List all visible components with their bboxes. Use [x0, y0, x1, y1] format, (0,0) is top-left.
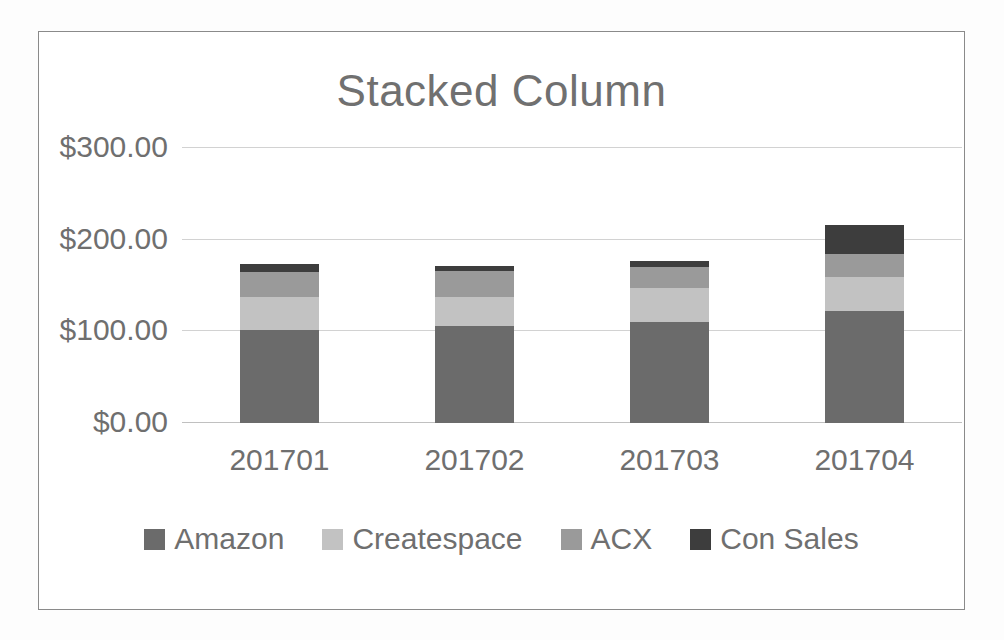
stacked-bar[interactable]: 201704	[825, 225, 904, 423]
x-axis-tick-label: 201702	[400, 445, 550, 475]
plot-area: $0.00$100.00$200.00$300.0020170120170220…	[182, 148, 962, 423]
bar-segment-con-sales[interactable]	[825, 225, 904, 254]
bar-segment-createspace[interactable]	[240, 297, 319, 330]
y-axis-tick-label: $200.00	[60, 224, 168, 254]
legend-item-createspace[interactable]: Createspace	[322, 524, 522, 554]
stacked-bar[interactable]: 201701	[240, 264, 319, 423]
legend-item-acx[interactable]: ACX	[561, 524, 653, 554]
y-axis-tick-label: $300.00	[60, 132, 168, 162]
bar-segment-acx[interactable]	[825, 254, 904, 277]
y-axis-tick-label: $100.00	[60, 315, 168, 345]
legend-swatch-icon	[144, 529, 165, 550]
stacked-bar[interactable]: 201702	[435, 266, 514, 423]
bar-segment-createspace[interactable]	[825, 277, 904, 311]
bar-segment-acx[interactable]	[630, 267, 709, 288]
chart-title: Stacked Column	[39, 69, 964, 113]
bar-segment-amazon[interactable]	[825, 311, 904, 423]
chart-page: Stacked Column $0.00$100.00$200.00$300.0…	[0, 0, 1004, 640]
legend-swatch-icon	[322, 529, 343, 550]
bar-segment-acx[interactable]	[240, 272, 319, 298]
gridline-300: $300.00	[182, 147, 962, 148]
stacked-bar[interactable]: 201703	[630, 261, 709, 423]
bar-segment-amazon[interactable]	[240, 330, 319, 423]
legend-label: Createspace	[352, 524, 522, 554]
legend-swatch-icon	[561, 529, 582, 550]
x-axis-tick-label: 201704	[790, 445, 940, 475]
legend-item-amazon[interactable]: Amazon	[144, 524, 284, 554]
legend-item-con-sales[interactable]: Con Sales	[690, 524, 858, 554]
bar-segment-con-sales[interactable]	[240, 264, 319, 271]
bar-segment-amazon[interactable]	[630, 322, 709, 423]
legend-label: Con Sales	[720, 524, 858, 554]
bar-segment-createspace[interactable]	[630, 288, 709, 322]
legend-label: ACX	[591, 524, 653, 554]
bar-segment-createspace[interactable]	[435, 297, 514, 326]
y-axis-tick-label: $0.00	[93, 407, 168, 437]
bar-segment-acx[interactable]	[435, 271, 514, 297]
chart-legend: AmazonCreatespaceACXCon Sales	[39, 524, 964, 554]
chart-frame: Stacked Column $0.00$100.00$200.00$300.0…	[38, 31, 965, 610]
bar-segment-amazon[interactable]	[435, 326, 514, 423]
x-axis-tick-label: 201703	[595, 445, 745, 475]
legend-swatch-icon	[690, 529, 711, 550]
legend-label: Amazon	[174, 524, 284, 554]
x-axis-tick-label: 201701	[205, 445, 355, 475]
